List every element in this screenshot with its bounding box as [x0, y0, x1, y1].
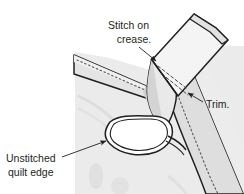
label-unstitched-quilt-edge-line1: Unstitched [6, 152, 56, 164]
label-trim-line1: Trim. [206, 98, 230, 110]
leader-line-stitch-on-crease [139, 47, 156, 61]
label-stitch-on-crease: Stitch on crease. [108, 19, 152, 45]
label-unstitched-quilt-edge-line2: quilt edge [8, 166, 54, 178]
unstitched-loop-inner [110, 119, 167, 151]
label-unstitched-quilt-edge: Unstitched quilt edge [6, 152, 59, 178]
quilting-diagram-figure: Stitch on crease. Trim. Unstitched quilt… [0, 0, 244, 194]
label-stitch-on-crease-line1: Stitch on [108, 19, 149, 31]
label-stitch-on-crease-line2: crease. [117, 33, 151, 45]
label-trim: Trim. [206, 98, 230, 110]
diagram-canvas: Stitch on crease. Trim. Unstitched quilt… [0, 0, 244, 194]
